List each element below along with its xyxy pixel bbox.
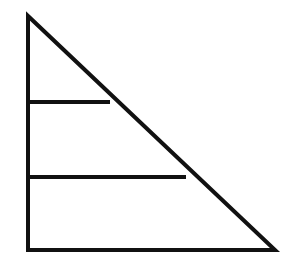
triangle-diagram [0, 0, 292, 267]
right-triangle-outline [28, 16, 275, 250]
